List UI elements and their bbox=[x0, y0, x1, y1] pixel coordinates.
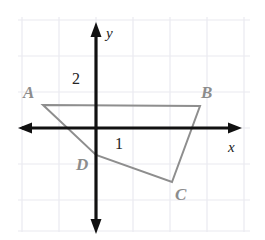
coordinate-plane-figure: A B C D 2 1 y x bbox=[0, 0, 265, 240]
grid-lines bbox=[18, 17, 250, 232]
x-axis-label: x bbox=[228, 140, 235, 155]
vertex-label-d: D bbox=[76, 156, 88, 173]
vertex-label-c: C bbox=[175, 186, 186, 203]
x-axis bbox=[18, 123, 242, 134]
x-axis-tick-label-1: 1 bbox=[115, 136, 123, 152]
y-axis-tick-label-2: 2 bbox=[72, 71, 80, 87]
graph-canvas bbox=[0, 0, 265, 240]
y-axis-label: y bbox=[106, 26, 113, 41]
vertex-label-a: A bbox=[23, 84, 34, 101]
vertex-label-b: B bbox=[201, 84, 212, 101]
